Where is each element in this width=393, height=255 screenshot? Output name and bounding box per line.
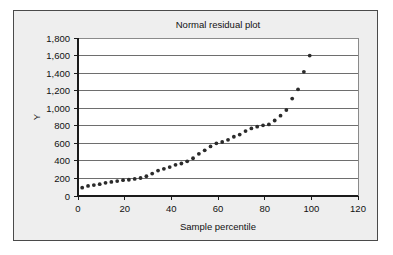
data-point [226, 138, 230, 142]
x-tick-label: 0 [75, 203, 80, 214]
y-tick-label: 1,600 [46, 50, 70, 61]
chart-title: Normal residual plot [176, 19, 261, 30]
normal-residual-plot: 02004006008001,0001,2001,4001,6001,80002… [14, 11, 377, 240]
data-point [308, 54, 312, 58]
data-point [174, 163, 178, 167]
data-point [267, 123, 271, 127]
plot-background [78, 38, 358, 196]
data-point [203, 148, 207, 152]
x-tick-label: 80 [259, 203, 270, 214]
data-point [284, 108, 288, 112]
x-tick-label: 20 [119, 203, 130, 214]
y-tick-label: 1,000 [46, 103, 70, 114]
y-tick-label: 400 [54, 155, 70, 166]
data-point [232, 135, 236, 139]
data-point [144, 174, 148, 178]
data-point [244, 129, 248, 133]
data-point [220, 140, 224, 144]
data-point [238, 133, 242, 137]
data-point [156, 169, 160, 173]
data-point [92, 183, 96, 187]
data-point [261, 123, 265, 127]
data-point [133, 177, 137, 181]
data-point [168, 165, 172, 169]
data-point [179, 162, 183, 166]
data-point [209, 145, 213, 149]
data-point [109, 180, 113, 184]
data-point [191, 156, 195, 160]
data-point [214, 141, 218, 145]
y-tick-label: 800 [54, 120, 70, 131]
y-tick-label: 1,200 [46, 85, 70, 96]
chart-figure: 02004006008001,0001,2001,4001,6001,80002… [0, 0, 393, 255]
data-point [302, 70, 306, 74]
data-point [150, 172, 154, 176]
x-tick-label: 60 [213, 203, 224, 214]
y-tick-label: 600 [54, 138, 70, 149]
data-point [197, 152, 201, 156]
x-tick-label: 120 [350, 203, 366, 214]
data-point [273, 119, 277, 123]
y-tick-label: 200 [54, 173, 70, 184]
data-point [255, 125, 259, 129]
data-point [98, 182, 102, 186]
data-point [86, 184, 90, 188]
data-point [162, 167, 166, 171]
data-point [104, 181, 108, 185]
y-axis-title: Y [31, 113, 42, 120]
data-point [279, 114, 283, 118]
chart-panel: 02004006008001,0001,2001,4001,6001,80002… [13, 10, 378, 241]
data-point [115, 179, 119, 183]
data-point [121, 178, 125, 182]
data-point [185, 159, 189, 163]
y-tick-label: 1,800 [46, 33, 70, 44]
y-tick-label: 1,400 [46, 68, 70, 79]
data-point [127, 178, 131, 182]
y-tick-label: 0 [65, 191, 70, 202]
x-axis-title: Sample percentile [180, 221, 256, 232]
x-tick-label: 40 [166, 203, 177, 214]
data-point [80, 186, 84, 190]
data-point [296, 87, 300, 91]
data-point [139, 176, 143, 180]
data-point [249, 127, 253, 131]
x-tick-label: 100 [303, 203, 319, 214]
data-point [290, 97, 294, 101]
